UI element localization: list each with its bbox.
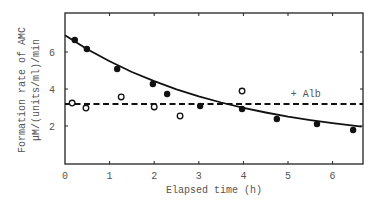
alb-annotation: + Alb [291, 89, 321, 100]
x-tick-label: 4 [240, 171, 246, 182]
filled-data-point [239, 106, 245, 112]
filled-data-point [350, 127, 356, 133]
open-data-point [151, 104, 157, 110]
x-tick-label: 5 [285, 171, 291, 182]
y-tick-label: 2 [49, 122, 55, 133]
y-tick-label: 4 [49, 85, 55, 96]
x-tick-label: 6 [330, 171, 336, 182]
x-tick-label: 0 [62, 171, 68, 182]
filled-data-point [84, 46, 90, 52]
y-axis-label-line2: μM/(units/ml)/min [31, 39, 42, 141]
chart: 0123456 246 + Alb Elapsed time (h) Forma… [0, 0, 380, 212]
open-data-point [83, 105, 89, 111]
filled-data-point [197, 103, 203, 109]
filled-data-point [72, 37, 78, 43]
x-tick-label: 2 [151, 171, 157, 182]
open-data-point [69, 100, 75, 106]
filled-data-point [114, 66, 120, 72]
y-tick-label: 6 [49, 48, 55, 59]
filled-data-point [150, 81, 156, 87]
x-tick-label: 3 [196, 171, 202, 182]
x-tick-label: 1 [107, 171, 113, 182]
filled-data-point [274, 116, 280, 122]
fit-curve [65, 35, 362, 126]
data-points [69, 37, 356, 133]
open-data-point [239, 88, 245, 94]
plot-lines [65, 35, 363, 126]
open-data-point [118, 94, 124, 100]
x-axis-label: Elapsed time (h) [166, 185, 262, 196]
filled-data-point [314, 121, 320, 127]
y-axis-label-line1: Formation rate of AMC [17, 27, 28, 153]
filled-data-point [164, 91, 170, 97]
open-data-point [177, 113, 183, 119]
